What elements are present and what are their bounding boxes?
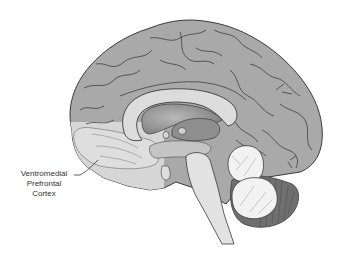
- vmpfc-label: Ventromedial Prefrontal Cortex: [16, 169, 72, 199]
- vmpfc-label-line-1: Ventromedial: [16, 169, 72, 179]
- cerebellum-upper-lobe: [228, 146, 264, 182]
- anterior-commissure: [163, 132, 169, 139]
- cerebellum-lower-lobe: [232, 178, 277, 219]
- brain-diagram: [0, 0, 341, 266]
- pituitary: [161, 166, 170, 180]
- vmpfc-label-line-3: Cortex: [16, 189, 72, 199]
- interthalamic-adhesion: [178, 128, 186, 135]
- vmpfc-label-line-2: Prefrontal: [16, 179, 72, 189]
